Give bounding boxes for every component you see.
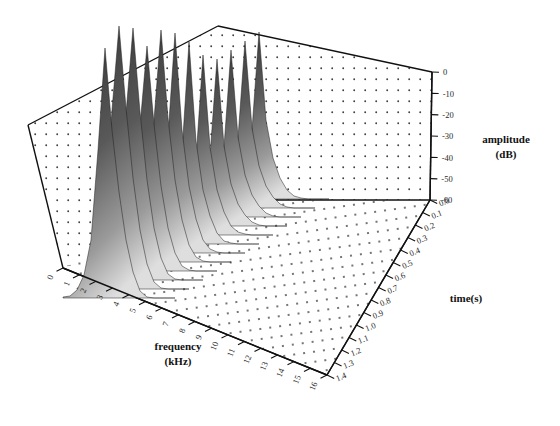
- amplitude-tick-label: 0: [443, 67, 447, 77]
- time-tick-mark: [327, 375, 334, 378]
- frequency-tick-mark: [205, 328, 212, 331]
- frequency-axis-title-line2: (kHz): [165, 355, 192, 368]
- amplitude-tick-label: -60: [441, 195, 452, 205]
- amplitude-axis-title-line2: (dB): [496, 148, 517, 161]
- frequency-tick-mark: [222, 335, 229, 338]
- frequency-tick-label: 16: [307, 380, 319, 392]
- time-tick-label: 0.4: [408, 245, 422, 259]
- frequency-tick-mark: [172, 315, 179, 318]
- frequency-tick-mark: [255, 348, 262, 351]
- frequency-tick-mark: [139, 301, 146, 304]
- frequency-tick-mark: [288, 362, 295, 365]
- amplitude-axis-title-line1: amplitude: [482, 133, 530, 145]
- time-tick-label: 1.2: [349, 345, 363, 358]
- time-tick-mark: [364, 313, 371, 316]
- frequency-tick-label: 4: [110, 299, 121, 307]
- frequency-tick-mark: [156, 308, 163, 311]
- frequency-tick-mark: [189, 322, 196, 325]
- time-tick-label: 0.3: [415, 233, 429, 246]
- amplitude-tick-group: 0-10-20-30-40-50-60: [430, 67, 454, 205]
- time-tick-mark: [386, 275, 393, 278]
- frequency-tick-label: 8: [176, 327, 187, 335]
- waterfall-plot-figure: 012345678910111213141516 0.00.10.20.30.4…: [0, 0, 560, 426]
- time-tick-mark: [379, 288, 386, 291]
- time-axis-title: time(s): [450, 292, 483, 305]
- frequency-tick-mark: [238, 342, 245, 345]
- frequency-tick-mark: [57, 268, 64, 271]
- frequency-tick-label: 10: [208, 340, 220, 352]
- time-tick-mark: [415, 225, 422, 228]
- frequency-tick-mark: [271, 355, 278, 358]
- time-tick-mark: [401, 250, 408, 253]
- time-tick-label: 0.1: [430, 208, 444, 221]
- amplitude-tick-label: -50: [441, 174, 452, 184]
- frequency-tick-mark: [321, 375, 328, 378]
- time-tick-label: 0.2: [422, 220, 436, 233]
- plot-svg: 012345678910111213141516 0.00.10.20.30.4…: [0, 0, 560, 426]
- frequency-tick-label: 11: [225, 347, 237, 358]
- time-tick-label: 1.1: [356, 333, 370, 346]
- time-tick-label: 0.5: [400, 258, 414, 271]
- time-tick-mark: [408, 238, 415, 241]
- amplitude-tick-label: -20: [442, 110, 453, 120]
- time-tick-label: 1.3: [342, 358, 356, 371]
- time-tick-label: 0.6: [393, 270, 407, 283]
- frequency-tick-label: 0: [44, 273, 55, 281]
- time-tick-mark: [349, 338, 356, 341]
- time-tick-label: 0.8: [378, 295, 392, 308]
- time-tick-mark: [356, 325, 363, 328]
- frequency-tick-label: 5: [127, 307, 138, 315]
- time-tick-mark: [423, 213, 430, 216]
- frequency-axis-title-line1: frequency: [155, 340, 202, 352]
- frequency-tick-label: 7: [160, 320, 171, 328]
- time-tick-label: 1.0: [364, 320, 378, 333]
- frequency-tick-mark: [304, 368, 311, 371]
- time-tick-mark: [342, 350, 349, 353]
- time-tick-mark: [334, 363, 341, 366]
- time-tick-label: 0.9: [371, 308, 385, 321]
- time-tick-mark: [393, 263, 400, 266]
- amplitude-tick-label: -10: [443, 89, 454, 99]
- time-tick-label: 0.7: [386, 283, 400, 296]
- frequency-tick-mark: [73, 275, 80, 278]
- time-tick-label: 1.4: [334, 370, 348, 384]
- frequency-tick-label: 12: [241, 353, 253, 365]
- frequency-tick-label: 6: [143, 313, 154, 321]
- amplitude-tick-label: -30: [442, 131, 453, 141]
- amplitude-tick-label: -40: [442, 153, 453, 163]
- frequency-tick-label: 1: [61, 280, 72, 288]
- frequency-tick-label: 15: [290, 374, 302, 386]
- frequency-tick-label: 14: [274, 366, 287, 378]
- time-tick-mark: [371, 300, 378, 303]
- frequency-tick-label: 13: [257, 360, 269, 372]
